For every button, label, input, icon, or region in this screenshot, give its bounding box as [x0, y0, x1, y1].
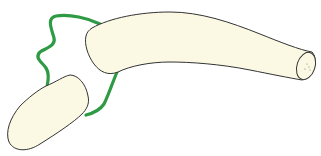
- proximal-bone: [85, 12, 315, 80]
- distal-bone: [8, 75, 89, 150]
- joint-illustration: [0, 0, 321, 156]
- joint-diagram: [0, 0, 321, 156]
- joint-capsule-lower: [86, 72, 117, 115]
